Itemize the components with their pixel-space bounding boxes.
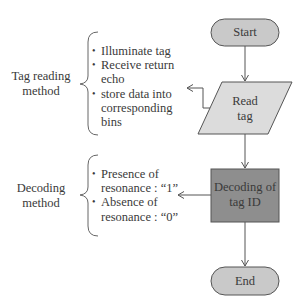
- tag-reading-title-line2: method: [2, 84, 80, 99]
- tag-reading-steps-list: Illuminate tag Receive return echo store…: [92, 44, 192, 129]
- rule-text: resonance : “1”: [101, 181, 192, 195]
- tag-reading-title-line1: Tag reading: [2, 69, 80, 84]
- decode-label: Decoding of tag ID: [211, 180, 279, 210]
- decode-label-line2: tag ID: [211, 195, 279, 210]
- tag-reading-step: store data into corresponding bins: [92, 87, 192, 130]
- step-text: bins: [101, 115, 192, 129]
- rule-text: Presence of: [101, 167, 192, 181]
- decoding-rule: Presence of resonance : “1”: [92, 167, 192, 195]
- decoding-rules-list: Presence of resonance : “1” Absence of r…: [92, 167, 192, 224]
- step-text: Receive return: [101, 58, 192, 72]
- tag-reading-method-title: Tag reading method: [2, 69, 80, 99]
- decoding-title-line2: method: [2, 196, 80, 211]
- rule-text: Absence of: [101, 195, 192, 209]
- decode-label-line1: Decoding of: [211, 180, 279, 195]
- end-label: End: [211, 274, 279, 289]
- read-tag-label-line1: Read: [211, 94, 279, 109]
- decoding-rule: Absence of resonance : “0”: [92, 195, 192, 223]
- read-tag-label-line2: tag: [211, 109, 279, 124]
- decoding-title-line1: Decoding: [2, 181, 80, 196]
- step-text: corresponding: [101, 101, 192, 115]
- tag-reading-step: Illuminate tag: [92, 44, 192, 58]
- start-label: Start: [211, 25, 279, 40]
- step-text: echo: [101, 72, 192, 86]
- decoding-method-title: Decoding method: [2, 181, 80, 211]
- step-text: store data into: [101, 87, 192, 101]
- step-text: Illuminate tag: [101, 44, 192, 58]
- read-tag-label: Read tag: [211, 94, 279, 124]
- rule-text: resonance : “0”: [101, 210, 192, 224]
- tag-reading-step: Receive return echo: [92, 58, 192, 86]
